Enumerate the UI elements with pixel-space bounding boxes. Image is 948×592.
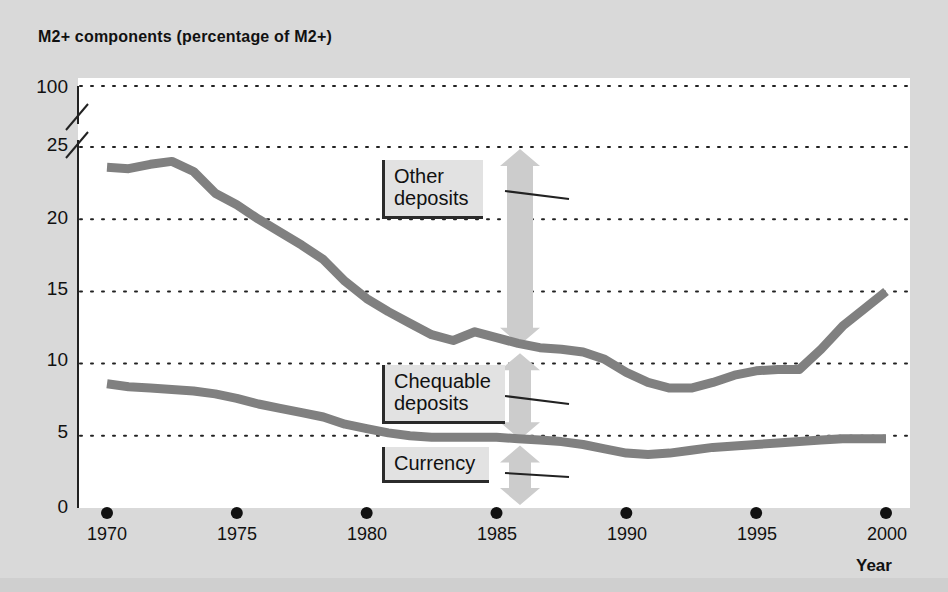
top-mask <box>0 0 948 78</box>
other-deposits-arrow <box>500 149 540 345</box>
x-tick-dot-1980 <box>361 507 373 519</box>
chart-figure: M2+ components (percentage of M2+) 100 2… <box>0 0 948 592</box>
x-tick-dot-1970 <box>101 507 113 519</box>
x-tick-dot-1975 <box>231 507 243 519</box>
x-tick-dot-1995 <box>750 507 762 519</box>
callout-chequable-deposits: Chequable deposits <box>382 365 505 424</box>
callout-currency: Currency <box>382 447 489 483</box>
x-tick-dot-1985 <box>491 507 503 519</box>
series-line-other-deposits <box>107 161 886 388</box>
callout-other-deposits: Other deposits <box>382 160 483 219</box>
x-tick-dot-1990 <box>620 507 632 519</box>
chart-canvas <box>0 0 948 592</box>
footer-bar <box>0 578 948 592</box>
x-tick-dot-2000 <box>880 507 892 519</box>
